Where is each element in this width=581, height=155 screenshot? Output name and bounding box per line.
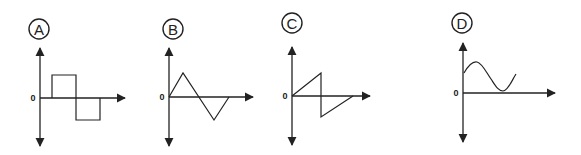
panel-c: C 0: [282, 13, 370, 145]
panel-b: B 0: [159, 19, 253, 146]
panel-label-b: B: [168, 21, 178, 38]
origin-label-b: 0: [159, 92, 164, 102]
origin-label-c: 0: [282, 91, 287, 101]
panel-d: D 0: [452, 13, 555, 142]
panel-label-a: A: [34, 21, 44, 38]
origin-label-d: 0: [453, 88, 458, 98]
panel-label-d: D: [457, 15, 468, 32]
panel-a: A 0: [29, 19, 125, 146]
sine-wave: [464, 62, 516, 91]
panel-label-c: C: [287, 15, 298, 32]
origin-label-a: 0: [30, 93, 35, 103]
sawtooth-wave: [292, 73, 353, 117]
waveform-diagram: A 0 B 0 C 0 D 0: [0, 0, 581, 155]
